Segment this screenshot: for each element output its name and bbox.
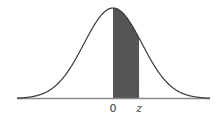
tick-label-z: z bbox=[135, 102, 142, 115]
tick-label-zero: 0 bbox=[110, 102, 117, 115]
normal-distribution-chart: 0 z bbox=[0, 0, 218, 118]
shaded-area-0-to-z bbox=[113, 8, 139, 99]
